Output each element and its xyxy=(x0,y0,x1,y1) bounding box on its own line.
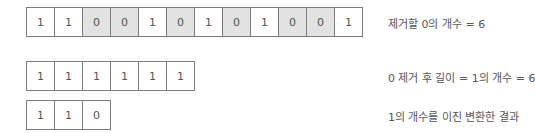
binary-conversion-label: 1의 개수를 이진 변환한 결과 xyxy=(388,108,519,124)
bit-cell: 1 xyxy=(250,7,279,37)
bit-cell: 1 xyxy=(166,61,195,91)
bit-cell: 1 xyxy=(194,7,223,37)
bit-cell-zero: 0 xyxy=(166,7,195,37)
bit-cell-zero: 0 xyxy=(110,7,139,37)
bit-cell: 1 xyxy=(54,61,83,91)
bit-cell-zero: 0 xyxy=(222,7,251,37)
bit-cell: 1 xyxy=(138,61,167,91)
bit-cell-zero: 0 xyxy=(278,7,307,37)
bit-cell-zero: 0 xyxy=(306,7,335,37)
bit-cell: 1 xyxy=(26,7,55,37)
bit-cell: 1 xyxy=(54,100,83,130)
length-after-removal-label: 0 제거 후 길이 = 1의 개수 = 6 xyxy=(388,69,535,85)
bit-cell-zero: 0 xyxy=(82,7,111,37)
bit-cell: 1 xyxy=(82,61,111,91)
original-binary-row: 110010101001 xyxy=(26,7,363,37)
binary-result-row: 110 xyxy=(26,100,111,130)
bit-cell: 1 xyxy=(138,7,167,37)
ones-only-row: 111111 xyxy=(26,61,195,91)
bit-cell: 1 xyxy=(334,7,363,37)
bit-cell: 1 xyxy=(110,61,139,91)
zeros-to-remove-label: 제거할 0의 개수 = 6 xyxy=(388,15,485,31)
bit-cell: 1 xyxy=(26,100,55,130)
bit-cell: 0 xyxy=(82,100,111,130)
bit-cell: 1 xyxy=(54,7,83,37)
bit-cell: 1 xyxy=(26,61,55,91)
